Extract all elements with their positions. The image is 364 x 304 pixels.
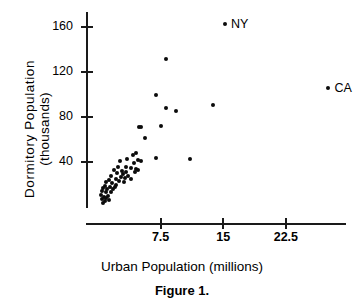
data-point-ny [223,22,227,26]
data-point [129,166,133,170]
data-point [118,159,122,163]
y-axis-tick [81,71,93,73]
x-axis-tick-label: 22.5 [264,231,308,244]
y-axis-line [86,12,88,208]
data-point [132,161,136,165]
data-point [119,175,123,179]
data-point [109,174,113,178]
point-label-ny: NY [231,18,248,31]
scatter-plot-area: 4080120160 7.51522.5 NYCA [0,0,364,240]
x-axis-title: Urban Population (millions) [0,259,364,274]
data-point [164,57,168,61]
y-axis-tick-label: 80 [43,110,73,123]
data-point [116,165,120,169]
y-axis-tick-label: 120 [43,65,73,78]
data-point [174,109,178,113]
x-axis-tick-label: 7.5 [139,231,183,244]
data-point [188,157,192,161]
data-point [122,180,126,184]
data-point-ca [326,86,330,90]
x-axis-tick [285,218,287,229]
data-point [133,170,137,174]
figure-1: Dormitory Population (thousands) 4080120… [0,0,364,304]
x-axis-line [86,223,346,225]
y-axis-tick-label: 160 [43,20,73,33]
data-point [139,125,143,129]
x-axis-tick [160,218,162,229]
data-point [107,198,111,202]
data-point [125,157,129,161]
data-point [154,156,158,160]
data-point [164,106,168,110]
data-point [154,93,158,97]
data-point [124,165,128,169]
figure-caption: Figure 1. [0,283,364,298]
data-point [131,153,135,157]
data-point [159,124,163,128]
data-point [211,103,215,107]
data-point [101,201,105,205]
y-axis-tick-label: 40 [43,155,73,168]
data-point [129,177,133,181]
data-point [123,176,127,180]
data-point [143,136,147,140]
y-axis-tick [81,161,93,163]
x-axis-tick [222,218,224,229]
y-axis-tick [81,116,93,118]
data-point [139,159,143,163]
data-point [117,179,121,183]
y-axis-tick [81,26,93,28]
x-axis-tick-label: 15 [201,231,245,244]
point-label-ca: CA [334,82,351,95]
